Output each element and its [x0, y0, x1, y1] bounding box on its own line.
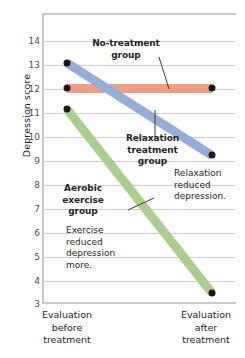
annotation-relaxation-note: Relaxation reduced depression.: [174, 168, 238, 203]
depression-score-line-chart: Depression score 14 13 12 11 10 9 8 7 6 …: [0, 0, 245, 358]
exercise-note-line-3: depression: [66, 248, 136, 260]
y-tick-3: 3: [6, 299, 40, 309]
x-before-line-2: before: [22, 322, 112, 335]
x-after-line-1: Evaluation: [167, 309, 245, 322]
point-no-treatment-after: [209, 85, 216, 92]
point-relaxation-after: [209, 152, 216, 159]
exercise-note-line-2: reduced: [66, 237, 136, 249]
y-axis-tick-labels: 14 13 12 11 10 9 8 7 6 5 4 3: [0, 0, 40, 358]
relax-note-line-2: reduced: [174, 180, 238, 192]
point-relaxation-before: [64, 59, 71, 66]
relax-note-line-3: depression.: [174, 191, 238, 203]
no-treatment-line-1: No-treatment: [84, 38, 168, 50]
x-after-line-3: treatment: [167, 334, 245, 347]
annotation-relaxation-group: Relaxation treatment group: [121, 133, 184, 168]
relaxation-line-2: treatment: [121, 145, 184, 157]
y-tick-9: 9: [6, 156, 40, 166]
aerobic-line-3: group: [56, 206, 110, 218]
x-axis-label-before: Evaluation before treatment: [22, 309, 112, 347]
annotation-exercise-note: Exercise reduced depression more.: [66, 225, 136, 271]
y-tick-4: 4: [6, 276, 40, 286]
no-treatment-line-2: group: [84, 50, 168, 62]
y-tick-6: 6: [6, 228, 40, 238]
x-before-line-3: treatment: [22, 334, 112, 347]
x-after-line-2: after: [167, 322, 245, 335]
relaxation-line-3: group: [121, 156, 184, 168]
annotation-no-treatment-group: No-treatment group: [84, 38, 168, 61]
x-axis-label-after: Evaluation after treatment: [167, 309, 245, 347]
y-tick-13: 13: [6, 60, 40, 70]
y-tick-14: 14: [6, 36, 40, 46]
exercise-note-line-4: more.: [66, 260, 136, 272]
relax-note-line-1: Relaxation: [174, 168, 238, 180]
x-before-line-1: Evaluation: [22, 309, 112, 322]
point-no-treatment-before: [64, 85, 71, 92]
y-tick-12: 12: [6, 84, 40, 94]
aerobic-line-1: Aerobic: [56, 183, 110, 195]
point-aerobic-before: [64, 106, 71, 113]
y-tick-5: 5: [6, 252, 40, 262]
annotation-aerobic-group: Aerobic exercise group: [56, 183, 110, 218]
y-tick-10: 10: [6, 132, 40, 142]
exercise-note-line-1: Exercise: [66, 225, 136, 237]
y-tick-11: 11: [6, 108, 40, 118]
y-tick-7: 7: [6, 204, 40, 214]
y-tick-8: 8: [6, 180, 40, 190]
relaxation-line-1: Relaxation: [121, 133, 184, 145]
point-aerobic-after: [209, 290, 216, 297]
aerobic-line-2: exercise: [56, 195, 110, 207]
